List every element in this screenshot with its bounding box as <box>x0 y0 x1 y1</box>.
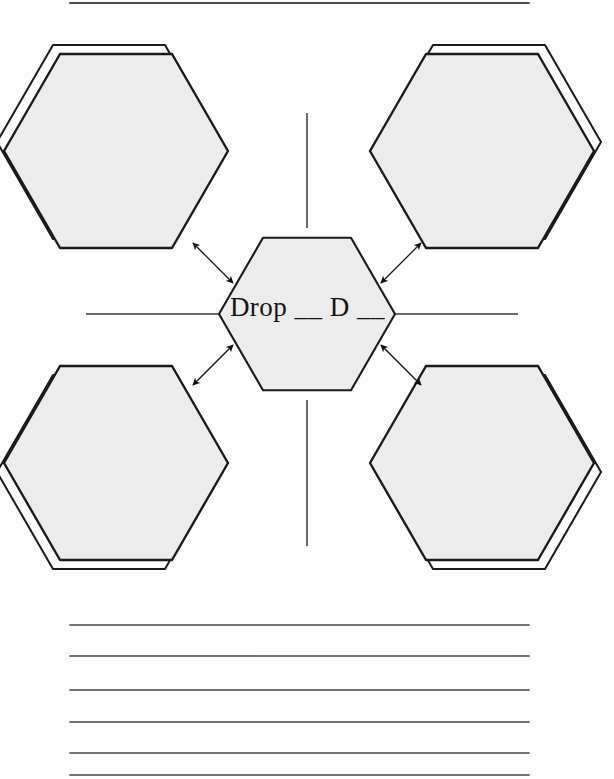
arrow-down-right <box>381 345 421 385</box>
center-hexagon-label: Drop __ D __ <box>205 294 410 321</box>
footer-caption <box>0 770 614 779</box>
hexagon-diagram <box>0 0 614 779</box>
arrow-up-right <box>381 243 421 283</box>
arrow-down-left <box>193 345 233 385</box>
hexagon-top-left <box>0 45 228 248</box>
hexagon-top-right <box>370 45 601 248</box>
arrow-up-left <box>193 243 233 283</box>
worksheet-page: Drop __ D __ <box>0 0 614 779</box>
hexagon-bottom-right <box>370 366 601 569</box>
hexagon-bottom-left <box>0 366 228 569</box>
writing-lines <box>70 625 529 775</box>
